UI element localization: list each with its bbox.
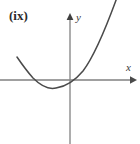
x-axis-arrowhead-icon [130, 76, 137, 84]
parabola-curve [17, 0, 128, 88]
part-label: (ix) [9, 9, 28, 23]
figure-screenshot: (ix) y x [0, 0, 140, 144]
x-axis-label: x [126, 62, 131, 73]
y-axis-arrowhead-icon [67, 13, 74, 20]
y-axis-label: y [76, 12, 81, 23]
